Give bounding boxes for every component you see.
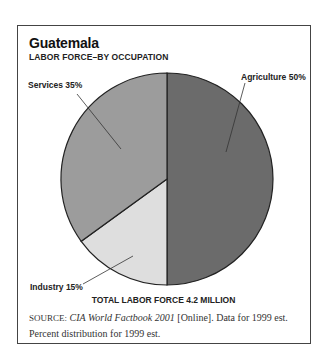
- slice-agriculture: [167, 73, 273, 285]
- source-publication: CIA World Factbook 2001: [70, 312, 175, 323]
- source-note: SOURCE: CIA World Factbook 2001 [Online]…: [29, 310, 309, 341]
- label-industry: Industry 15%: [30, 282, 83, 292]
- label-services: Services 35%: [28, 80, 82, 90]
- source-prefix: SOURCE:: [29, 313, 67, 323]
- total-labor-force: TOTAL LABOR FORCE 4.2 MILLION: [0, 295, 327, 305]
- label-agriculture: Agriculture 50%: [241, 72, 306, 82]
